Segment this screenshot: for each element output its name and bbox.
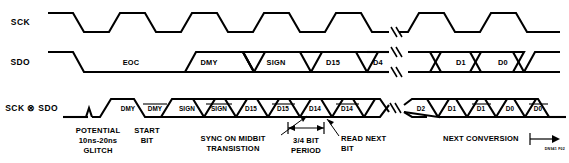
glitch-line-3: GLITCH bbox=[83, 146, 112, 155]
timing-diagram-figure: SCK SDO SCK ⊗ SDO EOC DMY SIGN D15 D4 D1… bbox=[0, 0, 569, 163]
xor-bit-label: DMY bbox=[121, 105, 136, 112]
bit-period-line-1: 3/4 BIT bbox=[293, 136, 319, 145]
next-conversion-label: NEXT CONVERSION bbox=[443, 134, 519, 143]
sdo-bit-label: EOC bbox=[123, 58, 140, 67]
annotation-read-next-bit: READ NEXT BIT bbox=[327, 119, 386, 153]
xor-bit-cell: SIGN bbox=[179, 105, 195, 112]
figure-id-code: DN941 F02 bbox=[545, 147, 565, 151]
sdo-bit-label: D15 bbox=[326, 58, 340, 67]
annotation-bit-period: 3/4 BIT PERIOD bbox=[288, 122, 324, 155]
xor-bit-label: D2 bbox=[417, 105, 426, 112]
xor-bit-label: D15 bbox=[245, 105, 257, 112]
xor-bit-cell: D0 bbox=[506, 105, 515, 112]
xor-bit-label: D0 bbox=[506, 105, 515, 112]
annotation-potential-glitch: POTENTIAL 10ns-20ns GLITCH bbox=[76, 126, 121, 155]
xor-bit-label: D15 bbox=[277, 105, 289, 112]
start-bit-line-1: START bbox=[134, 126, 160, 135]
xor-bit-cell: DMY bbox=[143, 104, 167, 112]
xor-bit-label: SIGN bbox=[211, 105, 227, 112]
signal-label-sdo: SDO bbox=[10, 57, 30, 67]
sync-midbit-line-2: TRANSISTION bbox=[206, 144, 259, 153]
xor-bit-label: SIGN bbox=[179, 105, 195, 112]
read-next-bit-arrowhead bbox=[327, 119, 334, 125]
sdo-bit-label: D1 bbox=[456, 58, 466, 67]
signal-label-sck-xor-sdo: SCK ⊗ SDO bbox=[5, 103, 58, 113]
start-bit-line-2: BIT bbox=[141, 136, 154, 145]
sdo-bit-label: DMY bbox=[200, 58, 217, 67]
glitch-line-2: 10ns-20ns bbox=[79, 136, 118, 145]
sdo-bit-label: D0 bbox=[498, 58, 508, 67]
annotation-start-bit: START BIT bbox=[134, 126, 160, 145]
bit-period-arrow-right bbox=[317, 125, 324, 131]
xor-bit-cell: D1 bbox=[448, 105, 457, 112]
xor-bit-label: D0 bbox=[534, 105, 543, 112]
xor-bit-cell: D14 bbox=[309, 105, 321, 112]
bit-period-line-2: PERIOD bbox=[291, 146, 321, 155]
xor-bit-label: DMY bbox=[148, 105, 163, 112]
sck-waveform bbox=[48, 13, 560, 37]
glitch-line-1: POTENTIAL bbox=[76, 126, 121, 135]
xor-break-marker bbox=[390, 103, 401, 113]
sync-midbit-line-1: SYNC ON MIDBIT bbox=[201, 134, 266, 143]
annotation-next-conversion: NEXT CONVERSION bbox=[443, 133, 560, 145]
next-conversion-arrowhead bbox=[552, 135, 560, 143]
xor-bit-cell: DMY bbox=[121, 105, 136, 112]
xor-bit-label: D14 bbox=[341, 105, 353, 112]
sdo-bit-label: SIGN bbox=[267, 58, 286, 67]
read-next-bit-line-2: BIT bbox=[341, 144, 354, 153]
bit-period-arrow-left bbox=[288, 125, 295, 131]
sdo-break-marker bbox=[391, 47, 402, 77]
xor-bit-cell: D15 bbox=[245, 105, 257, 112]
signal-label-sck: SCK bbox=[11, 17, 31, 27]
xor-bit-label: D14 bbox=[309, 105, 321, 112]
sdo-bit-label: D4 bbox=[373, 58, 384, 67]
xor-bit-cell: D2 bbox=[417, 105, 426, 112]
xor-bit-label: D1 bbox=[477, 105, 486, 112]
read-next-bit-line-1: READ NEXT bbox=[341, 134, 386, 143]
timing-diagram-canvas: SCK SDO SCK ⊗ SDO EOC DMY SIGN D15 D4 D1… bbox=[0, 0, 569, 163]
xor-bit-label: D1 bbox=[448, 105, 457, 112]
